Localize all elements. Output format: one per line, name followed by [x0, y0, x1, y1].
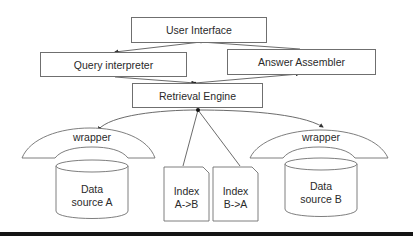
query-interpreter-node: Query interpreter — [40, 52, 187, 77]
data-source-b-label: Data source B — [285, 180, 357, 206]
data-source-b-line2: source B — [285, 193, 357, 206]
user-interface-label: User Interface — [166, 24, 232, 36]
retrieval-engine-node: Retrieval Engine — [132, 83, 263, 108]
wrapper-b-label: wrapper — [291, 131, 351, 144]
bottom-divider-rule — [0, 232, 413, 236]
data-source-a-line1: Data — [56, 183, 128, 196]
user-interface-node: User Interface — [131, 17, 267, 43]
index-ba-line1: Index — [213, 185, 258, 198]
answer-assembler-node: Answer Assembler — [227, 49, 376, 75]
query-interpreter-label: Query interpreter — [74, 59, 153, 71]
edge-retrieval-to-index-ab — [183, 110, 198, 166]
edge-ui-to-answer — [201, 42, 300, 49]
index-ab-line1: Index — [164, 185, 209, 198]
edge-ui-to-query — [115, 42, 201, 52]
answer-assembler-label: Answer Assembler — [258, 56, 345, 68]
data-source-a-line2: source A — [56, 196, 128, 209]
data-source-b-line1: Data — [285, 180, 357, 193]
index-ab-line2: A->B — [164, 198, 209, 211]
retrieval-engine-label: Retrieval Engine — [159, 90, 236, 102]
index-ba-label: Index B->A — [213, 185, 258, 211]
edge-retrieval-to-index-ba — [198, 110, 240, 166]
wrapper-a-label: wrapper — [62, 131, 122, 144]
edge-retrieval-to-answer — [195, 74, 299, 83]
architecture-diagram: User Interface Query interpreter Answer … — [0, 0, 415, 238]
edge-retrieval-to-wrapper-b — [198, 110, 323, 127]
data-source-a-label: Data source A — [56, 183, 128, 209]
index-ab-label: Index A->B — [164, 185, 209, 211]
index-ba-line2: B->A — [213, 198, 258, 211]
edge-retrieval-to-wrapper-a — [98, 110, 198, 130]
